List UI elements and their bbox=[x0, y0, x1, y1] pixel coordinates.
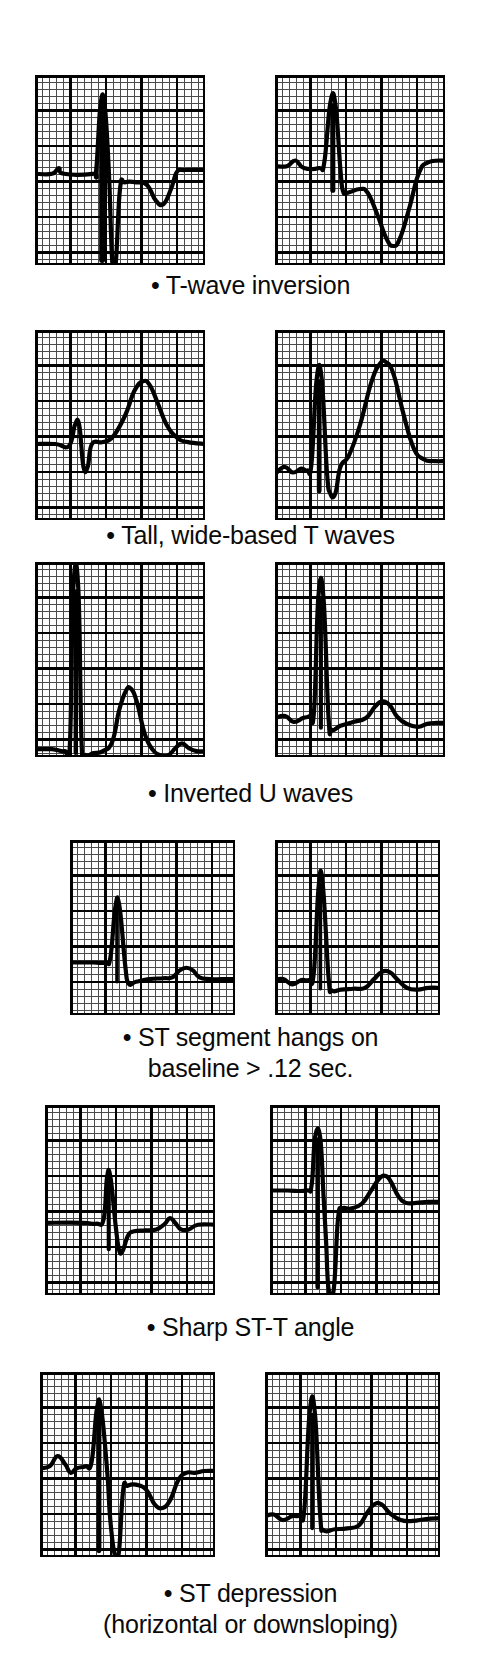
ecg-panel-inverted-u-waves-right bbox=[275, 562, 445, 757]
caption-inverted-u-waves: • Inverted U waves bbox=[0, 778, 501, 818]
ecg-panel-tall-wide-based-t-waves-right bbox=[275, 330, 445, 520]
caption-st-segment-hangs-on-baseline: • ST segment hangs on baseline > .12 sec… bbox=[0, 1022, 501, 1094]
ecg-panel-t-wave-inversion-left bbox=[35, 75, 205, 265]
caption-tall-wide-based-t-waves: • Tall, wide-based T waves bbox=[0, 520, 501, 560]
caption-st-depression: • ST depression (horizontal or downslopi… bbox=[0, 1578, 501, 1650]
caption-t-wave-inversion: • T-wave inversion bbox=[0, 270, 501, 310]
ecg-panel-tall-wide-based-t-waves-left bbox=[35, 330, 205, 520]
ecg-panel-t-wave-inversion-right bbox=[275, 75, 445, 265]
ecg-panel-st-depression-left bbox=[40, 1372, 215, 1557]
ecg-panel-st-segment-hangs-on-baseline-left bbox=[70, 840, 235, 1015]
ecg-panel-inverted-u-waves-left bbox=[35, 562, 205, 757]
caption-sharp-st-t-angle: • Sharp ST-T angle bbox=[0, 1312, 501, 1352]
ecg-ischemia-figure: • T-wave inversion• Tall, wide-based T w… bbox=[0, 0, 501, 1670]
ecg-panel-st-depression-right bbox=[265, 1372, 440, 1557]
ecg-panel-sharp-st-t-angle-left bbox=[45, 1105, 215, 1295]
ecg-panel-st-segment-hangs-on-baseline-right bbox=[275, 840, 440, 1015]
ecg-panel-sharp-st-t-angle-right bbox=[270, 1105, 440, 1295]
